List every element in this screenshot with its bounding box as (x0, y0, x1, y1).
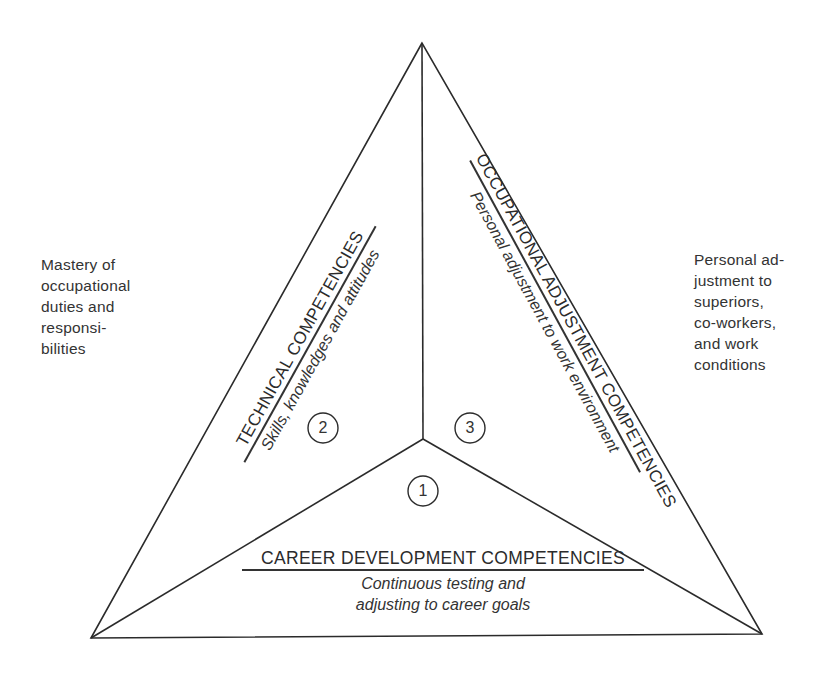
right-side-note: Personal ad- justment to superiors, co-w… (694, 249, 784, 375)
section-3-number: 3 (460, 418, 480, 438)
career-development-underline (242, 569, 644, 571)
career-development-title: CAREER DEVELOPMENT COMPETENCIES (240, 548, 646, 568)
career-development-subtitle-1: Continuous testing and (240, 573, 646, 594)
section-2-number: 2 (313, 418, 333, 438)
career-development-subtitle-2: adjusting to career goals (240, 594, 646, 615)
section-career-development: CAREER DEVELOPMENT COMPETENCIES Continuo… (240, 548, 646, 615)
section-1-number: 1 (413, 481, 433, 501)
divider-vertical (422, 43, 423, 439)
left-side-note: Mastery of occupational duties and respo… (41, 254, 130, 359)
